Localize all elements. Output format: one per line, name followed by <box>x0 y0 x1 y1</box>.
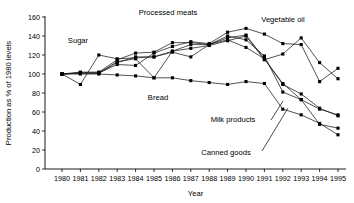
y-tick-label: 40 <box>32 127 40 136</box>
data-point-marker <box>171 50 174 53</box>
x-tick-label: 1985 <box>146 174 162 183</box>
data-point-marker <box>97 72 100 75</box>
data-point-marker <box>171 45 174 48</box>
series-annotation-label: Canned goods <box>201 148 251 157</box>
data-point-marker <box>336 133 339 136</box>
x-tick-label: 1983 <box>109 174 125 183</box>
x-tick-label: 1981 <box>72 174 88 183</box>
data-point-marker <box>244 46 247 49</box>
data-point-marker <box>208 81 211 84</box>
data-point-marker <box>60 72 63 75</box>
x-axis-ticks: 1980198119821983198419851986198719881989… <box>54 169 346 183</box>
y-tick-label: 160 <box>28 13 40 22</box>
data-point-marker <box>244 38 247 41</box>
data-point-marker <box>244 80 247 83</box>
series-annotation-label: Milk products <box>211 115 256 124</box>
data-point-marker <box>336 113 339 116</box>
x-tick-label: 1991 <box>256 174 272 183</box>
data-point-marker <box>281 82 284 85</box>
series-annotation-label: Sugar <box>68 36 89 45</box>
x-tick-label: 1995 <box>330 174 346 183</box>
y-tick-label: 80 <box>32 89 40 98</box>
x-axis-title: Year <box>188 189 204 198</box>
annotation-leader-line <box>271 101 283 120</box>
x-tick-label: 1982 <box>91 174 107 183</box>
data-point-marker <box>281 108 284 111</box>
series-annotation-label: Vegetable oil <box>261 15 305 24</box>
data-point-marker <box>152 51 155 54</box>
y-tick-label: 140 <box>28 32 40 41</box>
data-point-marker <box>336 127 339 130</box>
data-point-marker <box>134 55 137 58</box>
series-line <box>62 28 338 81</box>
y-tick-label: 120 <box>28 51 40 60</box>
data-point-marker <box>226 31 229 34</box>
series-annotation-label: Bread <box>148 93 168 102</box>
data-point-marker <box>152 55 155 58</box>
x-tick-label: 1990 <box>238 174 254 183</box>
y-tick-label: 20 <box>32 146 40 155</box>
data-point-marker <box>226 38 229 41</box>
annotation-leader-line <box>262 108 288 151</box>
y-tick-label: 0 <box>36 165 40 174</box>
data-point-marker <box>152 76 155 79</box>
data-point-marker <box>171 76 174 79</box>
data-point-marker <box>263 54 266 57</box>
data-point-marker <box>226 83 229 86</box>
x-tick-label: 1987 <box>183 174 199 183</box>
data-point-marker <box>263 82 266 85</box>
x-tick-label: 1986 <box>164 174 180 183</box>
data-point-marker <box>300 36 303 39</box>
data-point-marker <box>189 55 192 58</box>
data-point-marker <box>281 53 284 56</box>
line-chart: 020406080100120140160 198019811982198319… <box>0 0 354 203</box>
x-tick-label: 1988 <box>201 174 217 183</box>
data-point-marker <box>263 33 266 36</box>
data-point-marker <box>189 79 192 82</box>
data-point-marker <box>79 72 82 75</box>
data-point-marker <box>300 98 303 101</box>
data-point-marker <box>79 83 82 86</box>
data-point-marker <box>300 113 303 116</box>
series-line <box>62 36 338 128</box>
data-point-marker <box>189 47 192 50</box>
y-tick-label: 60 <box>32 108 40 117</box>
data-point-marker <box>116 73 119 76</box>
series-line <box>62 74 338 135</box>
data-point-marker <box>244 34 247 37</box>
data-point-marker <box>263 57 266 60</box>
data-point-marker <box>318 108 321 111</box>
data-point-marker <box>134 64 137 67</box>
data-point-marker <box>189 43 192 46</box>
chart-canvas: 020406080100120140160 198019811982198319… <box>0 0 354 203</box>
data-point-marker <box>244 27 247 30</box>
data-point-marker <box>318 122 321 125</box>
x-tick-label: 1992 <box>275 174 291 183</box>
x-tick-label: 1984 <box>128 174 144 183</box>
data-point-marker <box>318 61 321 64</box>
data-point-marker <box>336 67 339 70</box>
y-axis-ticks: 020406080100120140160 <box>28 13 45 174</box>
y-axis-title: Production as % of 1980 levels <box>4 41 13 145</box>
x-tick-label: 1989 <box>220 174 236 183</box>
annotation-labels-group: SugarProcessed meatsVegetable oilBreadMi… <box>68 8 305 157</box>
data-point-marker <box>300 92 303 95</box>
data-point-marker <box>281 42 284 45</box>
data-point-marker <box>97 53 100 56</box>
data-point-marker <box>116 61 119 64</box>
y-tick-label: 100 <box>28 70 40 79</box>
data-point-marker <box>208 43 211 46</box>
series-lines-group <box>62 28 338 134</box>
data-point-marker <box>281 91 284 94</box>
data-point-marker <box>134 74 137 77</box>
data-point-marker <box>116 58 119 61</box>
data-point-marker <box>134 52 137 55</box>
data-point-marker <box>336 77 339 80</box>
data-point-marker <box>300 43 303 46</box>
series-annotation-label: Processed meats <box>139 8 198 17</box>
data-point-marker <box>171 41 174 44</box>
x-tick-label: 1994 <box>312 174 328 183</box>
data-point-marker <box>318 80 321 83</box>
x-tick-label: 1980 <box>54 174 70 183</box>
x-tick-label: 1993 <box>293 174 309 183</box>
